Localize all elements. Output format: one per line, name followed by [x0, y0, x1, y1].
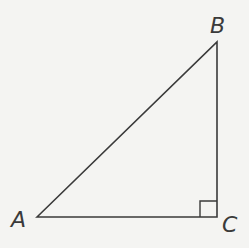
- vertex-label-a: A: [9, 207, 26, 232]
- triangle-abc: [37, 42, 217, 217]
- vertex-label-c: C: [222, 212, 238, 237]
- triangle-diagram: B A C: [0, 0, 249, 248]
- vertex-label-b: B: [210, 13, 225, 38]
- right-angle-marker: [200, 201, 217, 217]
